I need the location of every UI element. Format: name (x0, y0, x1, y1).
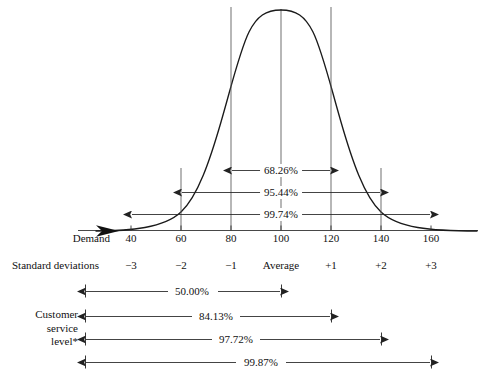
sd-tick-average: Average (263, 259, 299, 272)
axis-tick-label-140: 140 (373, 232, 390, 245)
service-level-label-84: 84.13% (194, 310, 238, 323)
service-level-label-50: 50.00% (170, 285, 214, 298)
service-level-label-99: 99.87% (239, 356, 283, 369)
axis-title-demand: Demand (73, 232, 110, 245)
csl-line-1: Customer (0, 308, 78, 322)
csl-line-2: service (0, 322, 78, 336)
band-label-95: 95.44% (260, 186, 302, 199)
axis-tick-label-40: 40 (126, 232, 137, 245)
normal-distribution-figure: 68.26% 95.44% 99.74% Demand 40 60 80 100… (0, 0, 480, 376)
customer-service-level-label: Customer service level* (0, 308, 78, 349)
sd-tick-plus-3: +3 (425, 259, 437, 272)
band-label-99-74: 99.74% (260, 208, 302, 221)
sd-tick-minus-2: −2 (175, 259, 187, 272)
normal-curve-right (281, 10, 477, 231)
axis-tick-label-160: 160 (423, 232, 440, 245)
band-label-68: 68.26% (260, 164, 302, 177)
axis-tick-label-80: 80 (226, 232, 237, 245)
sd-tick-plus-1: +1 (325, 259, 337, 272)
sd-tick-minus-3: −3 (125, 259, 137, 272)
normal-curve-left (96, 10, 281, 231)
axis-tick-label-120: 120 (323, 232, 340, 245)
standard-deviations-row-label: Standard deviations (12, 259, 99, 272)
sd-tick-plus-2: +2 (375, 259, 387, 272)
service-level-label-97: 97.72% (214, 333, 258, 346)
axis-tick-label-100: 100 (273, 232, 290, 245)
csl-line-3: level* (0, 335, 78, 349)
axis-tick-label-60: 60 (176, 232, 187, 245)
sd-tick-minus-1: −1 (225, 259, 237, 272)
